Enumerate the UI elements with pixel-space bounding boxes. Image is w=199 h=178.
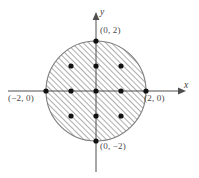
point-label-0-2: (0, 2): [100, 25, 121, 35]
lattice-point: [68, 88, 73, 93]
lattice-point: [93, 38, 98, 43]
lattice-point: [68, 63, 73, 68]
math-figure-disk-lattice: (0, 2) (2, 0) (−2, 0) (0, −2) x y: [0, 0, 199, 178]
y-axis-label: y: [100, 7, 104, 17]
lattice-point: [93, 113, 98, 118]
lattice-point: [118, 63, 123, 68]
lattice-point: [43, 88, 48, 93]
x-axis-label: x: [184, 80, 188, 90]
lattice-point: [68, 113, 73, 118]
point-label-2-0: (2, 0): [144, 93, 165, 103]
lattice-point: [118, 113, 123, 118]
lattice-point: [93, 63, 98, 68]
lattice-point: [93, 88, 98, 93]
y-axis-arrowhead: [93, 12, 100, 20]
lattice-point: [93, 138, 98, 143]
lattice-point: [118, 88, 123, 93]
point-label-0-neg2: (0, −2): [100, 141, 126, 151]
point-label-neg2-0: (−2, 0): [8, 93, 34, 103]
